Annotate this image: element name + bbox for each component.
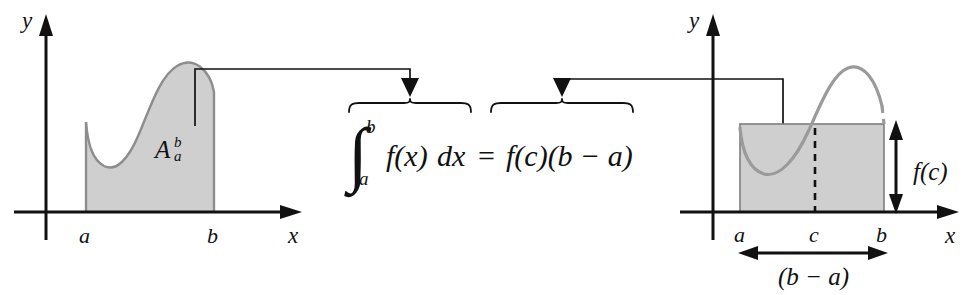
right-panel: y x a c b f(c) (b − a) <box>680 8 959 291</box>
left-tick-b: b <box>207 223 218 248</box>
equation-equals: = <box>478 139 495 172</box>
brace-over-integral <box>349 99 471 112</box>
equation-group: ∫ b a f(x) dx = f(c)(b − a) <box>344 99 633 198</box>
integral-upper-limit: b <box>366 116 376 137</box>
right-tick-c: c <box>809 222 819 247</box>
figure-root: y x a b A b a ∫ b a f(x) dx <box>0 0 973 295</box>
equation-integrand: f(x) <box>386 139 428 173</box>
left-y-axis-arrowhead <box>39 14 53 36</box>
right-tick-a: a <box>734 222 745 247</box>
right-tick-b: b <box>876 222 887 247</box>
left-x-axis-label: x <box>287 223 299 248</box>
equation-differential: dx <box>437 139 466 172</box>
left-connector-arrowhead <box>401 78 419 97</box>
left-x-axis-arrowhead <box>280 205 302 219</box>
height-arrowhead-top <box>889 120 903 140</box>
height-dimension-arrow <box>889 120 903 214</box>
width-label-b-minus-a: (b − a) <box>778 263 849 291</box>
left-y-axis-label: y <box>20 8 33 33</box>
right-curve-dashed-tail <box>882 106 884 124</box>
equation-right-side: f(c)(b − a) <box>506 139 633 173</box>
left-connector-path <box>195 69 410 126</box>
height-label-fc: f(c) <box>913 158 948 186</box>
width-dimension-arrow <box>738 246 888 260</box>
right-y-axis-label: y <box>687 8 700 33</box>
width-arrowhead-left <box>738 246 758 260</box>
area-label-subscript: a <box>174 148 182 164</box>
mean-value-theorem-figure: y x a b A b a ∫ b a f(x) dx <box>0 0 973 295</box>
right-connector-arrowhead <box>553 78 571 97</box>
right-rectangle-fill <box>740 124 884 212</box>
left-connector <box>195 69 419 126</box>
right-x-axis-label: x <box>944 223 956 248</box>
area-label-base: A <box>153 136 171 163</box>
right-y-axis-arrowhead <box>706 14 720 36</box>
brace-over-product <box>491 99 633 112</box>
left-panel: y x a b A b a <box>14 8 302 248</box>
integral-lower-limit: a <box>359 168 369 189</box>
left-tick-a: a <box>79 223 90 248</box>
right-x-axis-arrowhead <box>937 205 959 219</box>
area-label: A b a <box>153 134 182 164</box>
width-arrowhead-right <box>868 246 888 260</box>
